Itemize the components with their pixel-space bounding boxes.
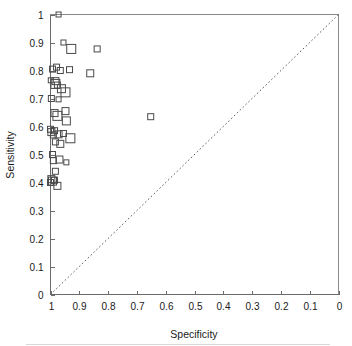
y-tick-label: 1 — [38, 10, 44, 21]
data-point-marker — [87, 70, 94, 77]
x-tick-label: 0.1 — [304, 301, 318, 312]
data-point-marker — [66, 134, 75, 143]
roc-scatter-plot: 10.90.80.70.60.50.40.30.20.10 00.10.20.3… — [0, 0, 352, 346]
data-point-marker — [56, 156, 63, 163]
data-point-marker — [62, 108, 69, 115]
x-tick-label: 0.2 — [275, 301, 289, 312]
data-point-marker — [61, 40, 66, 45]
data-point-marker — [48, 96, 54, 102]
x-tick-label: 0.8 — [102, 301, 116, 312]
data-point-marker — [148, 114, 154, 120]
data-point-marker — [52, 168, 58, 174]
data-point-markers — [48, 12, 154, 189]
x-tick-label: 0.7 — [131, 301, 145, 312]
x-tick-label: 0.5 — [189, 301, 203, 312]
data-point-marker — [62, 117, 70, 125]
y-tick-label: 0.7 — [30, 94, 44, 105]
data-point-marker — [56, 97, 61, 102]
x-tick-label: 1 — [49, 301, 55, 312]
y-tick-label: 0.3 — [30, 206, 44, 217]
roc-figure: 10.90.80.70.60.50.40.30.20.10 00.10.20.3… — [0, 0, 352, 346]
y-tick-label: 0.2 — [30, 234, 44, 245]
x-axis-ticks: 10.90.80.70.60.50.40.30.20.10 — [49, 291, 343, 312]
chance-diagonal-line — [51, 15, 339, 295]
data-point-marker — [67, 44, 76, 53]
data-point-marker — [67, 67, 73, 73]
x-tick-label: 0.6 — [160, 301, 174, 312]
y-tick-label: 0.5 — [30, 150, 44, 161]
x-axis-title: Specificity — [170, 328, 218, 340]
x-tick-label: 0 — [337, 301, 343, 312]
data-point-marker — [57, 140, 64, 147]
data-point-marker — [53, 111, 62, 120]
y-tick-label: 0 — [38, 290, 44, 301]
x-tick-label: 0.4 — [217, 301, 231, 312]
x-tick-label: 0.9 — [73, 301, 87, 312]
y-tick-label: 0.6 — [30, 122, 44, 133]
x-tick-label: 0.3 — [246, 301, 260, 312]
data-point-marker — [64, 160, 69, 165]
y-axis-title: Sensitivity — [4, 131, 16, 179]
y-tick-label: 0.8 — [30, 66, 44, 77]
y-tick-label: 0.9 — [30, 38, 44, 49]
y-tick-label: 0.1 — [30, 262, 44, 273]
data-point-marker — [94, 46, 100, 52]
data-point-marker — [52, 139, 58, 145]
y-tick-label: 0.4 — [30, 178, 44, 189]
data-point-marker — [51, 110, 58, 117]
